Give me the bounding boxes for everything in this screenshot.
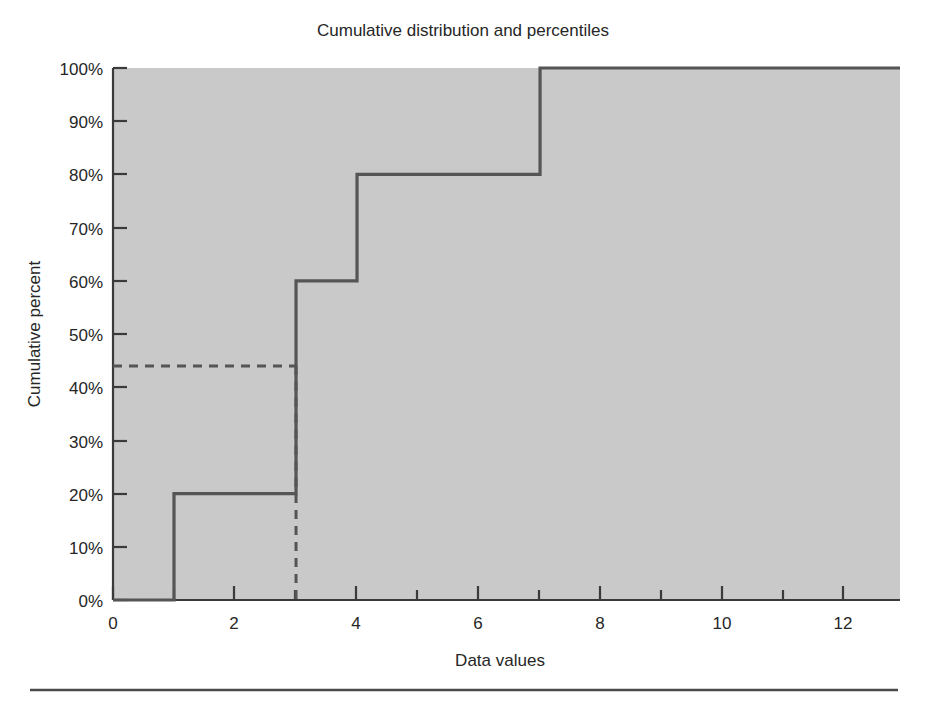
y-tick-label: 90% bbox=[69, 113, 103, 132]
y-tick-label: 70% bbox=[69, 220, 103, 239]
x-tick-label: 6 bbox=[473, 614, 482, 633]
cumulative-distribution-chart: Cumulative distribution and percentiles … bbox=[0, 0, 926, 705]
x-tick-label: 10 bbox=[713, 614, 732, 633]
x-axis-title: Data values bbox=[455, 651, 545, 670]
y-tick-label: 50% bbox=[69, 326, 103, 345]
x-tick-label: 2 bbox=[229, 614, 238, 633]
x-tick-label: 8 bbox=[595, 614, 604, 633]
chart-title: Cumulative distribution and percentiles bbox=[317, 21, 609, 40]
y-tick-label: 20% bbox=[69, 486, 103, 505]
y-axis-title: Cumulative percent bbox=[25, 260, 44, 407]
y-tick-label: 100% bbox=[60, 60, 103, 79]
x-tick-label: 0 bbox=[108, 614, 117, 633]
plot-area-background bbox=[113, 68, 900, 600]
y-tick-labels: 100% 90% 80% 70% 60% 50% 40% 30% 20% 10%… bbox=[60, 60, 103, 611]
x-tick-label: 4 bbox=[351, 614, 360, 633]
figure-container: Cumulative distribution and percentiles … bbox=[0, 0, 926, 705]
y-tick-label: 30% bbox=[69, 433, 103, 452]
y-tick-label: 0% bbox=[78, 592, 103, 611]
x-tick-labels: 0 2 4 6 8 10 12 bbox=[108, 614, 852, 633]
y-tick-label: 40% bbox=[69, 379, 103, 398]
x-tick-label: 12 bbox=[834, 614, 853, 633]
y-tick-label: 60% bbox=[69, 273, 103, 292]
y-tick-label: 80% bbox=[69, 166, 103, 185]
y-tick-label: 10% bbox=[69, 539, 103, 558]
